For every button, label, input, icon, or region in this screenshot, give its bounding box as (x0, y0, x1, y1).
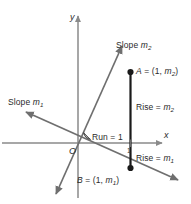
point-b-dot (127, 165, 133, 171)
rise-m1-var: m (163, 153, 170, 163)
origin-label: O (69, 147, 76, 156)
slope-m2-text: Slope (116, 40, 141, 50)
rise-m2-sub: 2 (171, 106, 175, 113)
line-slope-m2 (56, 46, 122, 194)
point-a-dot (127, 69, 133, 75)
x-tick-label: 1 (127, 148, 131, 155)
slope-m1-label: Slope m1 (8, 98, 43, 107)
point-a-label: A = (1, m2) (136, 67, 178, 76)
rise-m2-var: m (163, 102, 170, 112)
rise-m2-text: Rise = (136, 102, 163, 112)
point-b-eq: = (1, (83, 175, 106, 185)
run-label: Run = 1 (92, 133, 123, 142)
y-axis-label: y (70, 13, 75, 22)
point-b-label: B = (1, m1) (77, 176, 119, 185)
point-a-var: m (164, 66, 171, 76)
point-a-sub: 2 (172, 70, 176, 77)
slope-m1-var: m (33, 97, 40, 107)
rise-m1-text: Rise = (136, 153, 163, 163)
x-axis-label: x (164, 131, 169, 140)
slope-m1-sub: 1 (40, 101, 44, 108)
point-a-eq: = (1, (142, 66, 165, 76)
point-a-close: ) (175, 66, 178, 76)
line-slope-m1 (26, 112, 178, 180)
point-b-sub: 1 (113, 179, 117, 186)
slope-m1-text: Slope (8, 97, 33, 107)
slope-m2-var: m (141, 40, 148, 50)
rise-m1-sub: 1 (171, 157, 175, 164)
slope-m2-label: Slope m2 (116, 41, 151, 50)
slope-m2-sub: 2 (148, 44, 152, 51)
point-b-close: ) (116, 175, 119, 185)
slope-diagram: y x O 1 Slope m2 Slope m1 A = (1, m2) B … (0, 0, 191, 204)
rise-m2-label: Rise = m2 (136, 103, 174, 112)
rise-m1-label: Rise = m1 (136, 154, 174, 163)
point-b-var: m (105, 175, 112, 185)
